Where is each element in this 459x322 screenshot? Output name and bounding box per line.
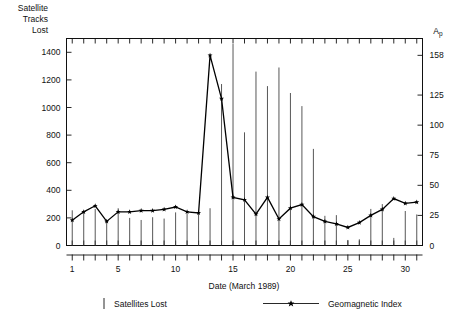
legend: Satellites Lost Geomagnetic Index bbox=[104, 298, 402, 309]
left-ticklabel: 1200 bbox=[42, 75, 61, 85]
x-ticklabel: 5 bbox=[116, 264, 121, 274]
left-ticklabel: 800 bbox=[46, 130, 60, 140]
chart-figure: Satellite Tracks Lost Ap 020040060080010… bbox=[0, 0, 459, 322]
x-ticklabel: 20 bbox=[286, 264, 296, 274]
left-ticklabel: 1000 bbox=[42, 103, 61, 113]
x-axis-title: Date (March 1989) bbox=[209, 281, 280, 291]
right-ticklabel: 75 bbox=[430, 150, 440, 160]
star-marker-icon bbox=[288, 300, 295, 306]
star-marker-icon bbox=[162, 207, 167, 212]
left-ticklabel: 0 bbox=[56, 241, 61, 251]
legend-item-satellites-lost: Satellites Lost bbox=[104, 298, 168, 309]
star-marker-icon bbox=[150, 208, 155, 213]
x-axis-ticks-top bbox=[72, 39, 417, 44]
right-ticklabel: 158 bbox=[430, 50, 444, 60]
left-axis-title-line-2: Tracks bbox=[23, 14, 48, 24]
x-ticklabel: 1 bbox=[70, 264, 75, 274]
x-ticklabel: 30 bbox=[401, 264, 411, 274]
left-axis-ticklabels: 0200400600800100012001400 bbox=[42, 47, 61, 250]
left-axis-title-line-1: Satellite bbox=[18, 3, 49, 13]
right-axis-ticklabels: 0255075100125158 bbox=[430, 50, 444, 250]
right-ticklabel: 0 bbox=[430, 241, 435, 251]
legend-label-satellites-lost: Satellites Lost bbox=[114, 299, 168, 309]
right-ticklabel: 50 bbox=[430, 180, 440, 190]
star-marker-icon bbox=[345, 225, 350, 230]
x-axis-ticklabels: 151015202530 bbox=[70, 264, 410, 274]
star-marker-icon bbox=[414, 200, 419, 205]
star-marker-icon bbox=[139, 208, 144, 213]
left-ticklabel: 1400 bbox=[42, 47, 61, 57]
left-ticklabel: 600 bbox=[46, 158, 60, 168]
right-axis-title: Ap bbox=[433, 26, 443, 38]
right-ticklabel: 100 bbox=[430, 120, 444, 130]
left-axis-title: Satellite Tracks Lost bbox=[18, 3, 49, 35]
star-marker-icon bbox=[127, 209, 132, 214]
x-ticklabel: 25 bbox=[343, 264, 353, 274]
star-marker-icon bbox=[185, 209, 190, 214]
star-marker-icon bbox=[403, 201, 408, 206]
left-axis-ticks bbox=[67, 52, 72, 245]
left-ticklabel: 400 bbox=[46, 185, 60, 195]
right-axis-ticks bbox=[418, 55, 423, 245]
legend-label-geomagnetic-index: Geomagnetic Index bbox=[328, 299, 402, 309]
x-ticklabel: 15 bbox=[228, 264, 238, 274]
legend-item-geomagnetic-index: Geomagnetic Index bbox=[263, 299, 402, 309]
right-axis-title-main: Ap bbox=[433, 26, 443, 38]
right-ticklabel: 25 bbox=[430, 210, 440, 220]
right-ticklabel: 125 bbox=[430, 90, 444, 100]
left-ticklabel: 200 bbox=[46, 213, 60, 223]
x-ticklabel: 10 bbox=[171, 264, 181, 274]
satellites-lost-bars bbox=[72, 44, 417, 245]
left-axis-title-line-3: Lost bbox=[32, 25, 49, 35]
